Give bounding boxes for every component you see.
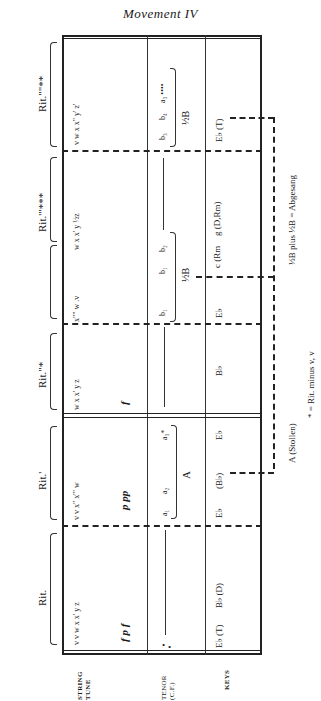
tenor-asterisk: • — [162, 640, 165, 650]
string-sequence: v v w x x' y z — [72, 602, 81, 645]
table-bottom-rule — [62, 650, 262, 651]
abgesang-connector — [273, 117, 275, 469]
key-label: (B♭) — [214, 473, 224, 489]
column-divider-tenor-keys — [205, 35, 206, 655]
key-label: g (D,Rm) — [212, 202, 222, 237]
section-bracket — [50, 333, 57, 410]
row-label-tenor-name: TENOR — [160, 675, 168, 700]
row-label-cf: (C.F.) — [168, 675, 176, 700]
rit-label: Rit. — [36, 590, 48, 606]
row-label-tune: TUNE — [84, 671, 92, 700]
key-label: E♭ (T) — [214, 625, 224, 648]
abgesang-annotation: ½B plus ½B = Abgesang — [287, 175, 297, 265]
tenor-group-label: ½B — [180, 268, 191, 282]
dynamics: p pp — [118, 491, 130, 510]
section-divider — [62, 150, 262, 152]
abgesang-connector — [196, 276, 274, 278]
tenor-group-bracket — [171, 425, 177, 519]
rit-label: Rit."* — [36, 362, 48, 388]
stollen-connector — [230, 472, 274, 474]
tenor-line — [163, 158, 164, 230]
key-label: E♭ — [214, 508, 224, 518]
section-divider-double — [62, 413, 262, 418]
tenor-asterisk: • — [168, 642, 171, 652]
key-label: c (Rm — [212, 246, 222, 268]
key-label: E♭ (T) — [214, 119, 224, 142]
key-label: B♭ (D) — [214, 583, 224, 608]
section-divider — [62, 323, 262, 325]
column-divider-string-tenor — [147, 35, 148, 655]
section-bracket — [50, 245, 57, 319]
analysis-table — [62, 35, 262, 655]
tenor-group-bracket — [170, 68, 176, 147]
string-sequence: v w x x" y' z' — [72, 104, 81, 145]
tenor-note: a₃* — [160, 430, 169, 440]
section-bracket — [50, 426, 57, 520]
section-bracket — [50, 42, 57, 147]
tenor-note: b₃ — [158, 133, 167, 140]
tenor-group-label: ½B — [180, 111, 191, 125]
dynamics: f p f — [118, 624, 130, 642]
page-title: Movement IV — [0, 6, 321, 22]
string-sequence: x"" w .v — [72, 296, 81, 322]
tenor-note: b₁ — [158, 309, 167, 316]
tenor-note: a₃ •••• — [158, 83, 167, 103]
dynamics: f — [118, 401, 130, 405]
tenor-note: b₄ — [158, 113, 167, 120]
row-label-tenor: TENOR (C.F.) — [160, 675, 176, 700]
tenor-note: a₂ — [160, 488, 169, 494]
string-sequence: w x x' y ½z — [72, 213, 81, 250]
row-label-string: STRING — [76, 671, 84, 700]
section-bracket — [50, 157, 57, 242]
tenor-group-label: A — [180, 471, 192, 479]
abgesang-connector — [230, 117, 274, 119]
row-label-string-tune: STRING TUNE — [76, 671, 92, 700]
key-label: E♭ — [214, 430, 224, 440]
tenor-line — [165, 530, 166, 635]
stollen-annotation: A (Stollen) — [287, 423, 297, 463]
tenor-note: a₁ — [160, 510, 169, 516]
tenor-group-bracket — [170, 232, 176, 322]
tenor-note: b₁ — [158, 267, 167, 274]
rit-label: Rit.' — [36, 472, 48, 490]
key-label: B♭ — [214, 366, 224, 376]
string-sequence: w x x' y z — [72, 379, 81, 410]
string-sequence: v v x" x'" w — [72, 482, 81, 520]
rit-label: Rit.""** — [36, 76, 48, 112]
tenor-note: b₂ — [158, 245, 167, 252]
rit-label: Rit.'"*** — [36, 193, 48, 232]
key-label: E♭ — [214, 308, 224, 318]
section-bracket — [50, 533, 57, 645]
tenor-line — [164, 327, 165, 407]
section-divider — [62, 525, 262, 527]
footnote: * = Rit. minus v, v — [306, 351, 316, 418]
table-top-rule — [62, 38, 262, 39]
row-label-keys: KEYS — [223, 670, 231, 690]
